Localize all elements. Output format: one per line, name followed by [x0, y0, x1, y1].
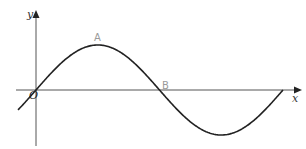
origin-label: O	[29, 89, 38, 102]
point-b-label: B	[162, 80, 169, 91]
y-axis-label: y	[26, 8, 34, 21]
sine-graph: y x O A B	[0, 0, 306, 149]
x-axis-label: x	[292, 92, 299, 105]
point-a-label: A	[94, 32, 101, 43]
y-axis-arrow-icon	[33, 10, 40, 18]
